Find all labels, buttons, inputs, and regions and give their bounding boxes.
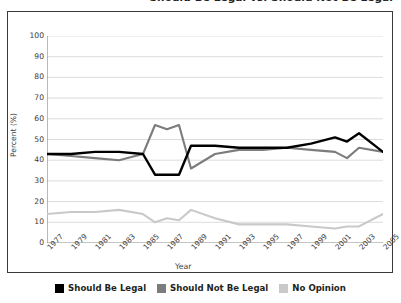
legend-swatch-icon [55,284,64,293]
chart-title-strip: Should Be Legal vs. Should Not Be Legal [0,0,401,11]
y-tick-label: 50 [24,136,44,144]
y-axis-label: Percent (%) [9,95,18,175]
page-title: Should Be Legal vs. Should Not Be Legal [149,0,393,3]
legend-item-label: No Opinion [292,283,346,293]
legend-item[interactable]: No Opinion [279,283,346,293]
chart-figure: Should Be Legal vs. Should Not Be Legal … [0,0,401,303]
legend-item-label: Should Not Be Legal [170,283,268,293]
y-tick-label: 30 [24,177,44,185]
y-tick-label: 10 [24,218,44,226]
legend-item[interactable]: Should Be Legal [55,283,146,293]
gridlines [47,36,383,222]
x-axis-label: Year [175,262,192,271]
series-line [47,210,383,229]
y-tick-label: 20 [24,198,44,206]
series-lines [47,125,383,228]
legend-item-label: Should Be Legal [68,283,146,293]
y-tick-label: 0 [24,239,44,247]
plot-area [47,36,383,243]
y-tick-label: 60 [24,115,44,123]
legend-swatch-icon [157,284,166,293]
lines-svg [47,36,383,243]
y-tick-label: 40 [24,156,44,164]
y-tick-label: 100 [24,32,44,40]
y-tick-label: 70 [24,94,44,102]
legend-swatch-icon [279,284,288,293]
y-tick-label: 90 [24,53,44,61]
y-axis-ticks: 1009080706050403020100 [20,36,44,243]
x-axis-ticks: 1977197919811983198519871989199119931995… [47,244,383,274]
legend-item[interactable]: Should Not Be Legal [157,283,268,293]
y-tick-label: 80 [24,73,44,81]
chart-legend: Should Be LegalShould Not Be LegalNo Opi… [0,283,401,293]
